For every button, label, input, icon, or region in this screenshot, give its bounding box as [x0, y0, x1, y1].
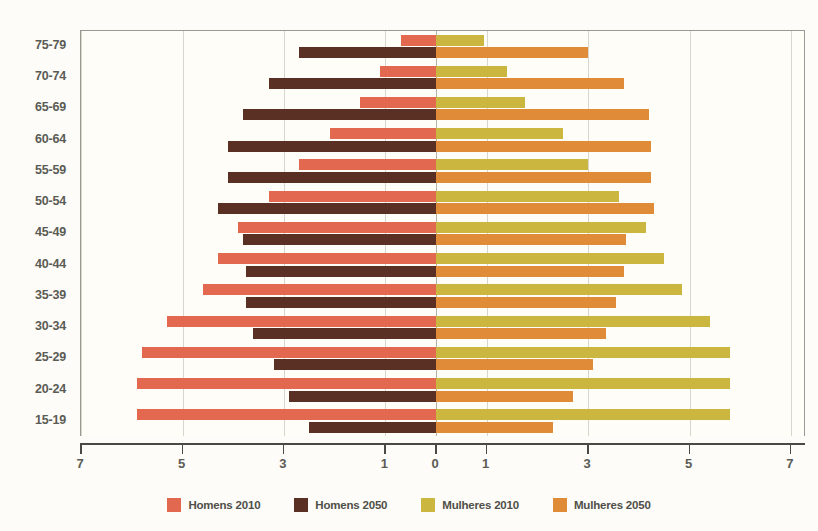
- y-axis-label-65-69: 65-69: [35, 92, 66, 123]
- x-tick-label-6: 3: [583, 456, 590, 471]
- legend-label: Homens 2050: [315, 499, 387, 511]
- bar-homens2050-70-74: [269, 78, 436, 89]
- bar-homens2050-20-24: [289, 391, 436, 402]
- bar-mulheres2010-15-19: [436, 409, 730, 420]
- age-row: [81, 218, 804, 249]
- bar-homens2010-25-29: [142, 347, 436, 358]
- bar-mulheres2050-65-69: [436, 109, 649, 120]
- bar-mulheres2010-75-79: [436, 35, 484, 46]
- legend-swatch-icon: [553, 498, 567, 512]
- age-row: [81, 375, 804, 406]
- bar-homens2010-55-59: [299, 159, 436, 170]
- legend-item-mulheres-2050[interactable]: Mulheres 2050: [553, 498, 651, 512]
- legend-item-homens-2050[interactable]: Homens 2050: [294, 498, 387, 512]
- bar-mulheres2010-40-44: [436, 253, 664, 264]
- x-tick-label-7: 5: [685, 456, 692, 471]
- x-axis: 753101357: [80, 443, 805, 477]
- x-tick-label-0: 7: [76, 456, 83, 471]
- x-tick-8: [790, 443, 792, 454]
- bar-homens2050-30-34: [253, 328, 436, 339]
- chart-legend: Homens 2010Homens 2050Mulheres 2010Mulhe…: [0, 492, 818, 518]
- bar-homens2010-75-79: [401, 35, 436, 46]
- y-axis-label-25-29: 25-29: [35, 342, 66, 373]
- bar-mulheres2010-55-59: [436, 159, 588, 170]
- y-axis-label-40-44: 40-44: [35, 249, 66, 280]
- x-tick-6: [587, 443, 589, 454]
- age-row: [81, 343, 804, 374]
- y-axis-label-35-39: 35-39: [35, 280, 66, 311]
- x-tick-label-8: 7: [786, 456, 793, 471]
- x-tick-2: [283, 443, 285, 454]
- age-row: [81, 156, 804, 187]
- bar-homens2010-45-49: [238, 222, 436, 233]
- age-row: [81, 31, 804, 62]
- bar-mulheres2050-25-29: [436, 359, 593, 370]
- bar-homens2010-30-34: [167, 316, 436, 327]
- bar-homens2050-35-39: [246, 297, 436, 308]
- x-tick-5: [486, 443, 488, 454]
- bar-mulheres2010-50-54: [436, 191, 619, 202]
- bar-mulheres2050-20-24: [436, 391, 573, 402]
- bar-mulheres2010-35-39: [436, 284, 682, 295]
- bar-mulheres2010-30-34: [436, 316, 710, 327]
- bar-homens2010-40-44: [218, 253, 436, 264]
- x-tick-label-3: 1: [381, 456, 388, 471]
- y-axis-label-75-79: 75-79: [35, 30, 66, 61]
- legend-swatch-icon: [294, 498, 308, 512]
- bar-mulheres2050-55-59: [436, 172, 651, 183]
- bar-mulheres2010-45-49: [436, 222, 646, 233]
- legend-item-mulheres-2010[interactable]: Mulheres 2010: [421, 498, 519, 512]
- y-axis-label-15-19: 15-19: [35, 405, 66, 436]
- age-row: [81, 406, 804, 437]
- bar-homens2050-65-69: [243, 109, 436, 120]
- bar-mulheres2050-15-19: [436, 422, 553, 433]
- y-axis-label-55-59: 55-59: [35, 155, 66, 186]
- bar-homens2050-55-59: [228, 172, 436, 183]
- age-row: [81, 93, 804, 124]
- y-axis-label-20-24: 20-24: [35, 374, 66, 405]
- bar-homens2010-60-64: [330, 128, 436, 139]
- x-tick-label-1: 5: [178, 456, 185, 471]
- x-tick-label-5: 1: [482, 456, 489, 471]
- y-axis-label-45-49: 45-49: [35, 217, 66, 248]
- age-row: [81, 125, 804, 156]
- bar-homens2050-60-64: [228, 141, 436, 152]
- x-tick-3: [384, 443, 386, 454]
- bar-mulheres2050-40-44: [436, 266, 624, 277]
- bar-mulheres2010-60-64: [436, 128, 563, 139]
- x-tick-7: [689, 443, 691, 454]
- legend-label: Mulheres 2050: [574, 499, 651, 511]
- x-tick-4: [435, 443, 437, 454]
- bar-homens2050-40-44: [246, 266, 436, 277]
- bar-homens2010-15-19: [137, 409, 436, 420]
- bar-mulheres2010-25-29: [436, 347, 730, 358]
- bar-mulheres2050-45-49: [436, 234, 626, 245]
- bar-homens2050-15-19: [309, 422, 436, 433]
- legend-item-homens-2010[interactable]: Homens 2010: [167, 498, 260, 512]
- legend-label: Homens 2010: [188, 499, 260, 511]
- age-row: [81, 281, 804, 312]
- bar-homens2010-65-69: [360, 97, 436, 108]
- age-row: [81, 250, 804, 281]
- x-tick-0: [80, 443, 82, 454]
- y-axis-age-labels: 75-7970-7465-6960-6455-5950-5445-4940-44…: [0, 30, 74, 436]
- age-row: [81, 312, 804, 343]
- plot-area: [80, 30, 805, 436]
- bar-homens2010-70-74: [380, 66, 436, 77]
- bar-mulheres2050-35-39: [436, 297, 616, 308]
- x-tick-label-4: 0: [431, 456, 438, 471]
- bar-mulheres2050-60-64: [436, 141, 651, 152]
- bar-homens2010-20-24: [137, 378, 436, 389]
- y-axis-label-50-54: 50-54: [35, 186, 66, 217]
- bar-mulheres2050-50-54: [436, 203, 654, 214]
- age-row: [81, 62, 804, 93]
- bar-homens2010-35-39: [203, 284, 436, 295]
- population-pyramid-chart: 75-7970-7465-6960-6455-5950-5445-4940-44…: [0, 0, 818, 531]
- age-row: [81, 187, 804, 218]
- bar-homens2010-50-54: [269, 191, 436, 202]
- bar-mulheres2010-70-74: [436, 66, 507, 77]
- bar-homens2050-45-49: [243, 234, 436, 245]
- y-axis-label-70-74: 70-74: [35, 61, 66, 92]
- legend-swatch-icon: [421, 498, 435, 512]
- bar-mulheres2010-20-24: [436, 378, 730, 389]
